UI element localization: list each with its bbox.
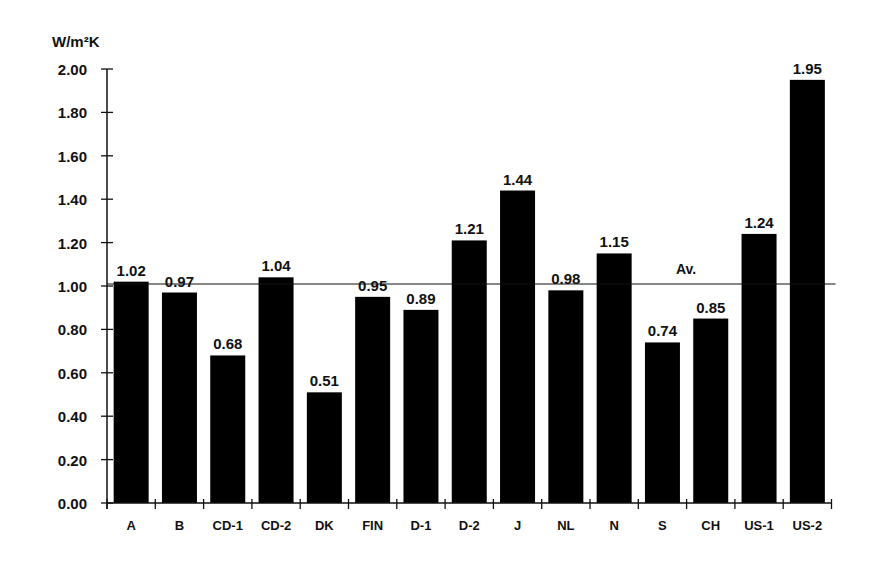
x-category-label: US-1 [744,518,774,533]
bar-us-1 [742,234,777,503]
x-category-label: CD-1 [213,518,243,533]
bar-d-2 [452,240,487,503]
bar-b [162,293,197,503]
x-category-label: NL [557,518,574,533]
bar-d-1 [403,310,438,503]
data-label: 0.85 [696,299,725,316]
x-category-label: DK [315,518,334,533]
average-label: Av. [676,261,696,277]
bar-ch [693,319,728,503]
data-label: 1.44 [503,171,533,188]
x-category-label: CH [701,518,720,533]
y-tick-label: 0.20 [58,452,87,469]
data-label: 1.95 [793,60,822,77]
data-label: 0.95 [358,277,387,294]
x-category-label: B [175,518,184,533]
x-category-label: CD-2 [261,518,291,533]
x-category-label: FIN [362,518,383,533]
y-tick-label: 1.20 [58,235,87,252]
x-category-label: D-2 [459,518,480,533]
y-tick-label: 0.60 [58,365,87,382]
bar-j [500,191,535,503]
y-tick-label: 0.40 [58,408,87,425]
data-label: 1.15 [600,233,629,250]
data-label: 0.51 [310,372,339,389]
bar-chart: W/m²K 0.000.200.400.600.801.001.201.401.… [0,0,879,565]
x-category-label: N [609,518,618,533]
bars: 1.020.970.681.040.510.950.891.211.440.98… [114,60,825,503]
bar-us-2 [790,80,825,503]
data-label: 0.89 [406,290,435,307]
y-tick-label: 1.80 [58,104,87,121]
y-axis-unit-label: W/m²K [52,33,100,50]
data-label: 1.21 [455,220,484,237]
y-tick-label: 1.00 [58,278,87,295]
bar-nl [548,290,583,503]
y-tick-label: 1.40 [58,191,87,208]
x-axis: ABCD-1CD-2DKFIND-1D-2JNLNSCHUS-1US-2 [107,499,832,533]
data-label: 0.74 [648,322,678,339]
bar-cd-1 [210,355,245,503]
bar-s [645,342,680,503]
x-category-label: A [126,518,136,533]
y-tick-label: 2.00 [58,61,87,78]
bar-cd-2 [259,277,294,503]
x-category-label: J [514,518,521,533]
x-category-label: US-2 [793,518,823,533]
x-category-label: D-1 [410,518,431,533]
bar-a [114,282,149,503]
data-label: 1.04 [261,257,291,274]
y-axis: 0.000.200.400.600.801.001.201.401.601.80… [58,61,113,512]
data-label: 0.68 [213,335,242,352]
y-tick-label: 0.00 [58,495,87,512]
data-label: 0.98 [551,270,580,287]
bar-n [597,253,632,503]
data-label: 1.02 [117,262,146,279]
y-tick-label: 1.60 [58,148,87,165]
bar-fin [355,297,390,503]
data-label: 0.97 [165,273,194,290]
y-tick-label: 0.80 [58,321,87,338]
data-label: 1.24 [744,214,774,231]
bar-dk [307,392,342,503]
x-category-label: S [658,518,667,533]
